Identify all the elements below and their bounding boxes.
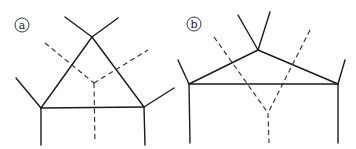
label-text: b [190, 18, 197, 31]
solid-edge [258, 12, 270, 50]
solid-edge [41, 107, 144, 108]
dashed-edge [268, 113, 269, 143]
solid-edge [144, 88, 174, 107]
dashed-edge [45, 43, 94, 83]
solid-edge [92, 37, 144, 107]
solid-edge [189, 84, 190, 143]
panel-label-a: a [15, 18, 29, 32]
dashed-edge [94, 50, 148, 83]
panel-a: a [15, 17, 174, 145]
solid-edge [258, 50, 338, 84]
label-text: a [19, 19, 26, 32]
solid-edge [178, 60, 189, 84]
solid-edge [144, 107, 145, 145]
solid-edge [16, 78, 41, 108]
dashed-edge [268, 30, 310, 113]
solid-edge [41, 37, 92, 108]
solid-edge [92, 18, 118, 37]
panel-label-b: b [187, 17, 201, 31]
solid-edge [238, 15, 258, 50]
solid-edge [189, 50, 258, 84]
dashed-edge [214, 37, 268, 113]
solid-edge [65, 17, 92, 37]
diagram-canvas: a b [0, 0, 356, 149]
panel-b: b [178, 12, 345, 143]
solid-edge [338, 60, 345, 84]
dashed-edge [94, 83, 95, 142]
